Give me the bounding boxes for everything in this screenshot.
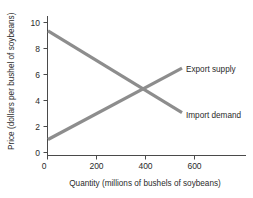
y-tick-label-4: 4 <box>35 96 40 106</box>
series-line-import-demand <box>48 31 182 113</box>
soybean-trade-chart: 0 2 4 6 8 10 0 200 400 600 Export supply… <box>0 0 253 198</box>
y-tick-label-0: 0 <box>35 148 40 158</box>
y-tick-label-8: 8 <box>35 44 40 54</box>
x-tick-label-0: 0 <box>42 161 47 171</box>
series-label-export-supply: Export supply <box>186 65 237 74</box>
y-tick-label-6: 6 <box>35 70 40 80</box>
y-tick-label-10: 10 <box>31 18 41 28</box>
chart-figure: 0 2 4 6 8 10 0 200 400 600 Export supply… <box>0 0 253 198</box>
x-axis-title: Quantity (millions of bushels of soybean… <box>69 179 221 188</box>
y-tick-label-2: 2 <box>35 122 40 132</box>
x-tick-label-600: 600 <box>187 161 201 171</box>
series-line-export-supply <box>48 68 182 139</box>
y-axis-title: Price (dollars per bushel of soybeans) <box>7 12 16 150</box>
series-label-import-demand: Import demand <box>186 111 242 120</box>
x-tick-label-400: 400 <box>138 161 152 171</box>
x-tick-label-200: 200 <box>89 161 103 171</box>
